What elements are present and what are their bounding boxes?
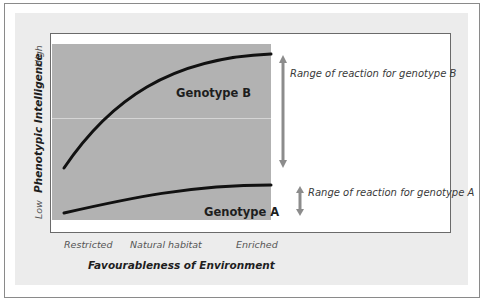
range-arrow-a <box>296 186 304 216</box>
y-tick-low: Low <box>33 200 44 219</box>
x-tick-natural-habitat: Natural habitat <box>130 239 202 250</box>
x-tick-enriched: Enriched <box>236 239 278 250</box>
range-label-b: Range of reaction for genotype B <box>290 68 456 79</box>
range-arrow-b <box>279 55 287 168</box>
y-axis-title: Phenotypic Intelligence <box>32 53 44 193</box>
x-axis-title: Favourableness of Environment <box>88 259 275 271</box>
range-label-a: Range of reaction for genotype A <box>308 187 474 198</box>
x-tick-restricted: Restricted <box>64 239 113 250</box>
genotype-a-label: Genotype A <box>204 205 279 219</box>
genotype-b-curve <box>64 54 271 168</box>
chart-svg <box>0 0 484 303</box>
genotype-b-label: Genotype B <box>176 86 251 100</box>
